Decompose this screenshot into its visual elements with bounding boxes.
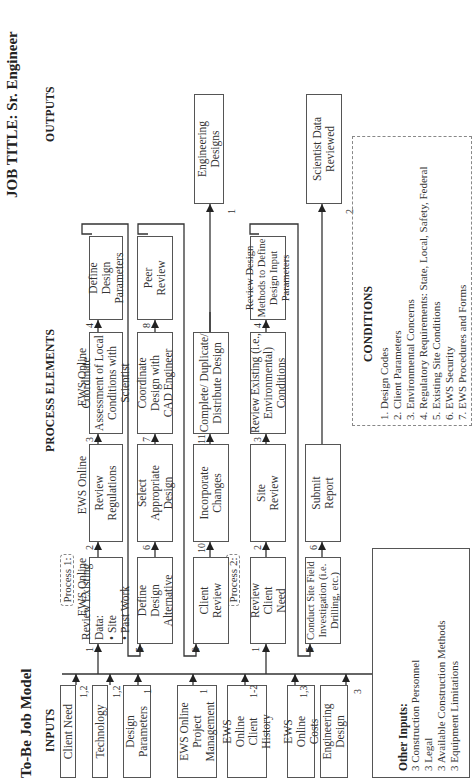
other-input-item: 3 Available Construction Methods — [435, 555, 448, 771]
inputs-heading: INPUTS — [44, 709, 56, 752]
input-refs: 1,3 — [298, 686, 309, 699]
other-inputs-title: Other Inputs: — [397, 555, 409, 771]
step-number: 7 — [141, 437, 152, 442]
step-number: 11 — [196, 434, 207, 444]
step-number: 9 — [190, 647, 201, 652]
input-refs: 1 — [142, 689, 153, 694]
step-number: 5 — [304, 647, 315, 652]
condition-item: 2. Client Parameters — [391, 167, 404, 420]
process-1-step-3: Coordinate Assessment of Local Condition… — [89, 332, 123, 434]
step-number: 10 — [196, 543, 207, 553]
condition-item: 3. Environmental Concerns — [404, 167, 417, 420]
process-2-step-6: Submit Report — [305, 444, 341, 542]
step-number: 3 — [252, 437, 263, 442]
step-number: 1 — [84, 647, 95, 652]
process-2-step-4: Review Design Methods to Define Design I… — [250, 236, 286, 320]
process-1-step-10: Incorporate Changes — [193, 444, 229, 542]
output-engineering-designs: Engineering Designs — [194, 94, 224, 204]
input-refs: 3 — [352, 689, 363, 694]
process-1-step-8: Peer Review — [137, 236, 173, 320]
other-inputs-panel: Other Inputs: 3 Construction Personnel 3… — [372, 548, 470, 778]
other-input-item: 3 Construction Personnel — [409, 555, 422, 771]
input-technology: Technology — [92, 685, 108, 778]
process-2-step-3: Review Existing (i.e., Environmental) Co… — [250, 332, 286, 434]
input-refs: 1 — [198, 689, 209, 694]
output-scientist-data-reviewed: Scientist Data Reviewed — [306, 94, 342, 204]
other-inputs-list: 3 Construction Personnel 3 Legal 3 Avail… — [409, 555, 461, 771]
input-refs: 1-2 — [248, 685, 259, 698]
other-input-item: 3 Legal — [422, 555, 435, 771]
process-1-step-1: Review Existing Data: Site Past Work — [89, 557, 123, 644]
ews-online-tag: EWS Online — [76, 450, 88, 520]
input-ews-client-history: EWS Online Client History — [227, 685, 267, 778]
step-number: 3 — [84, 437, 95, 442]
process-1-step-5: Define Design Alternative — [137, 557, 173, 644]
model-title: To-Be Job Model — [18, 669, 35, 778]
step-number: 4 — [84, 323, 95, 328]
step-number: 2 — [252, 545, 263, 550]
step-number: 6 — [308, 545, 319, 550]
step-number: 8 — [141, 323, 152, 328]
input-ews-project-management: EWS Online Project Management — [177, 685, 217, 778]
conditions-list: 1. Design Codes 2. Client Parameters 3. … — [378, 167, 469, 420]
condition-item: 4. Regulatory Requirements: State, Local… — [417, 167, 430, 420]
process-1-step-6: Select Appropriate Design — [137, 444, 173, 542]
process-2-step-1: Review Client Need — [250, 557, 286, 644]
condition-item: 6. EWS Security — [443, 167, 456, 420]
process-1-step-9: Client Review — [193, 557, 229, 644]
other-input-item: 3 Equipment Limitations — [448, 555, 461, 771]
step-number: 2 — [84, 545, 95, 550]
process-elements-heading: PROCESS ELEMENTS — [44, 329, 56, 452]
input-client-need: Client Need — [60, 685, 76, 778]
outputs-heading: OUTPUTS — [44, 86, 56, 142]
job-model-diagram: To-Be Job Model JOB TITLE: Sr. Engineer … — [0, 0, 475, 782]
job-title: JOB TITLE: Sr. Engineer — [4, 31, 21, 198]
process-2-step-5: Conduct Site Field Investigation (i.e. D… — [305, 557, 341, 644]
input-ews-costs: EWS Online Costs — [287, 685, 315, 778]
output-number: 1 — [226, 209, 237, 214]
condition-item: 1. Design Codes — [378, 167, 391, 420]
process-1-step-4: Define Design Parameters — [89, 236, 123, 320]
step-number: 5 — [134, 647, 145, 652]
step-number: 1 — [250, 647, 261, 652]
input-design-parameters: Design Parameters — [123, 685, 151, 778]
process-1-step-2: Review Regulations — [89, 444, 123, 542]
input-refs: 1,2 — [111, 686, 122, 699]
process-1-step-7: Coordinate Design with CAD Engineer — [137, 332, 173, 434]
process-1-label: Process 1: — [60, 554, 74, 606]
process-2-step-2: Site Review — [250, 444, 286, 542]
condition-item: 5. Existing Site Conditions — [430, 167, 443, 420]
input-refs: 1,2 — [78, 686, 89, 699]
step-number: 6 — [141, 545, 152, 550]
condition-item: 7. EWS Procedures and Forms — [456, 167, 469, 420]
input-engineering-design: Engineering Design — [320, 685, 348, 778]
step-number: 4 — [252, 323, 263, 328]
process-1-step-11: Complete/ Duplicate/ Distribute Design — [193, 332, 229, 434]
